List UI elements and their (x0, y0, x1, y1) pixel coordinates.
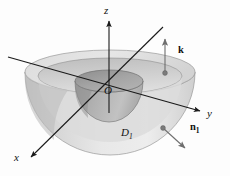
k-vector-base-dot (163, 71, 168, 76)
n1-vector-label-subscript: 1 (196, 126, 200, 135)
figure-canvas: z y x O D1 k n1 (0, 0, 230, 176)
n1-vector (161, 126, 185, 148)
x-axis-label: x (14, 152, 19, 163)
domain-label: D1 (121, 127, 133, 141)
z-axis-label: z (104, 5, 108, 16)
k-vector-label: k (178, 45, 184, 56)
n1-vector-label: n1 (190, 122, 200, 135)
n1-vector-base-dot (161, 126, 166, 131)
domain-label-text: D (121, 126, 129, 138)
domain-label-subscript: 1 (129, 132, 133, 141)
y-axis-label: y (207, 108, 212, 119)
n1-vector-shaft (163, 128, 185, 148)
diagram-svg (0, 0, 230, 176)
origin-label: O (104, 85, 112, 96)
